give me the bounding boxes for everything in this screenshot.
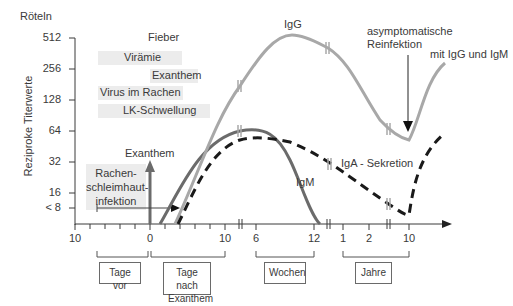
x-axis-arrowhead-icon	[442, 220, 452, 228]
reinfection-arrow	[403, 55, 413, 132]
exanthem-arrow-label: Exanthem	[125, 147, 175, 159]
exanthem-arrow	[145, 160, 155, 224]
igg-curve	[175, 35, 445, 224]
x-tick-year-1: 1	[331, 232, 355, 244]
unit-brackets	[97, 251, 409, 257]
iga-label: IgA - Sekretion	[341, 157, 413, 169]
chart-graphics	[0, 0, 513, 306]
x-tick-days-after-10: 10	[213, 232, 237, 244]
unit-tage-nach-line1: Tage nach	[168, 266, 206, 292]
x-axis	[75, 219, 452, 230]
x-tick-day-0: 0	[138, 232, 162, 244]
igm-label: IgM	[296, 176, 314, 188]
y-axis	[69, 38, 75, 225]
x-tick-week-6: 6	[244, 232, 268, 244]
igg-label: IgG	[284, 18, 302, 30]
unit-box-tage-vor: Tage vor	[99, 262, 141, 284]
x-tick-days-before-10: 10	[63, 232, 87, 244]
reinfection-label-2: Reinfektion	[367, 38, 422, 50]
unit-box-tage-nach: Tage nach Exanthem	[163, 262, 211, 295]
reinfection-label-1: asymptomatische	[367, 25, 453, 37]
x-tick-year-2: 2	[357, 232, 381, 244]
x-tick-week-12: 12	[302, 232, 326, 244]
unit-tage-nach-line2: Exanthem	[168, 292, 206, 305]
x-tick-year-10: 10	[397, 232, 421, 244]
unit-box-jahre: Jahre	[355, 262, 392, 284]
with-igg-igm-label: mit IgG und IgM	[430, 48, 508, 60]
unit-box-wochen: Wochen	[264, 262, 306, 284]
